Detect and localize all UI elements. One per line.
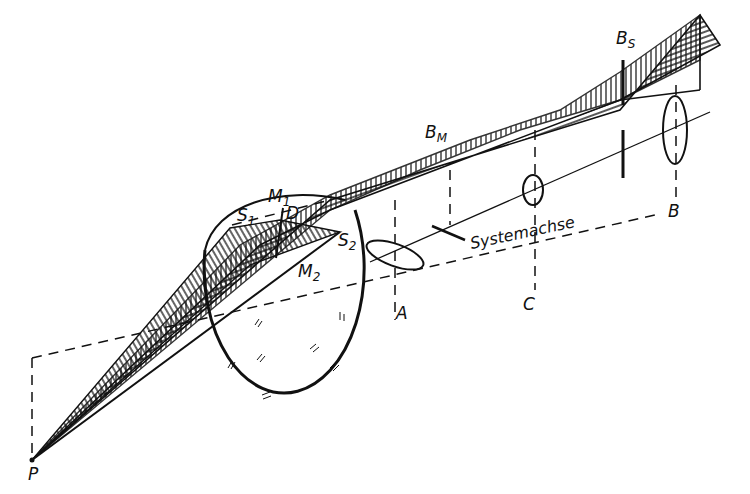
label-BS: BS — [616, 30, 635, 50]
label-P: P — [28, 466, 38, 483]
ellipse-B — [663, 96, 687, 164]
projection-lines — [32, 85, 676, 460]
label-M2: M2 — [298, 263, 320, 283]
light-beam — [32, 15, 720, 460]
label-B: B — [668, 203, 680, 220]
astigmatism-diagram: P S1 S2 M1 M2 D BM BS A C B Systemachse — [0, 0, 750, 494]
label-S2: S2 — [338, 232, 356, 252]
label-S1: S1 — [237, 207, 255, 227]
label-BM: BM — [425, 124, 447, 144]
sphere-texture-marks — [228, 312, 344, 399]
diagram-drawing — [0, 0, 750, 494]
label-C: C — [523, 296, 535, 313]
label-D: D — [286, 205, 299, 222]
label-A: A — [396, 305, 408, 322]
point-P — [30, 458, 35, 463]
